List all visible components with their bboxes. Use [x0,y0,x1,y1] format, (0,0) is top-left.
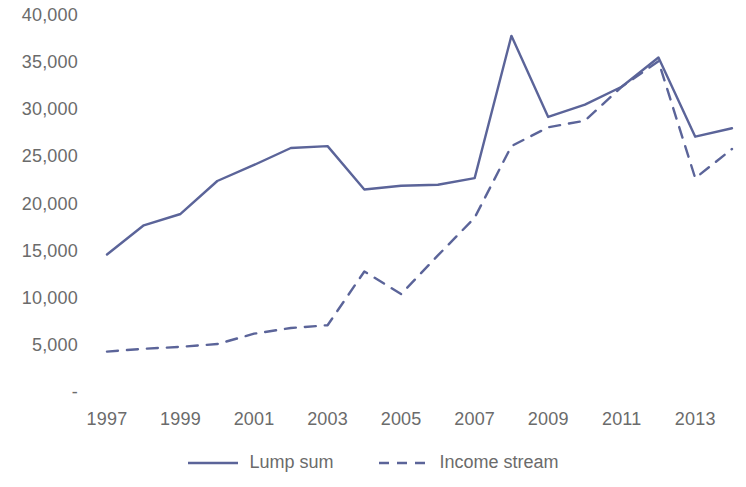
chart-legend: Lump sumIncome stream [0,452,746,473]
legend-label: Income stream [440,452,559,473]
legend-item-lump-sum[interactable]: Lump sum [187,452,333,473]
solid-line-swatch-icon [187,456,239,470]
series-line-income-stream [107,61,732,351]
plot-area [0,0,746,487]
series-line-lump-sum [107,36,732,255]
legend-item-income-stream[interactable]: Income stream [378,452,559,473]
legend-label: Lump sum [249,452,333,473]
dashed-line-swatch-icon [378,456,430,470]
line-chart: 40,00035,00030,00025,00020,00015,00010,0… [0,0,746,487]
